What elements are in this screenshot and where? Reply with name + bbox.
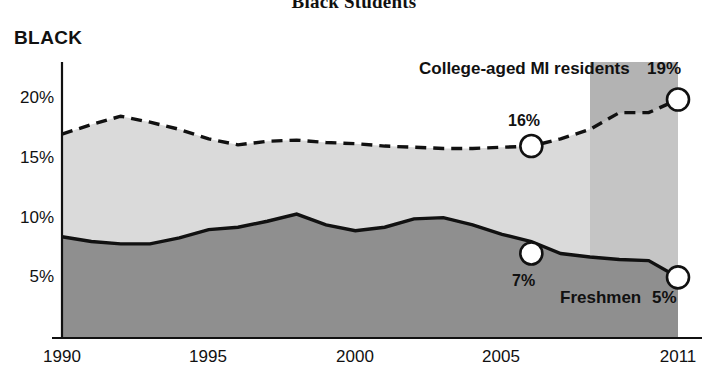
y-tick-label-20: 20% <box>6 88 54 108</box>
y-tick-label-5: 5% <box>6 267 54 287</box>
annotation-upper-series-label: College-aged MI residents <box>419 59 630 79</box>
chart-figure: Black Students BLACK 20% 15% 10% 5% 1990… <box>0 0 708 387</box>
x-tick-label-1995: 1995 <box>178 347 238 367</box>
annotation-upper-series-value: 19% <box>647 59 681 79</box>
x-tick-label-2005: 2005 <box>471 347 531 367</box>
x-tick-label-2011: 2011 <box>648 347 708 367</box>
annotation-lower-series-value: 5% <box>652 288 677 308</box>
x-tick-label-2000: 2000 <box>325 347 385 367</box>
annotation-mid-value: 16% <box>508 112 540 130</box>
upper-series-marker-2011 <box>667 89 689 111</box>
lower-series-marker-2011 <box>667 266 689 288</box>
annotation-lower-series-label: Freshmen <box>560 288 641 308</box>
y-tick-label-10: 10% <box>6 208 54 228</box>
lower-series-marker-2006 <box>520 242 542 264</box>
annotation-lower-value: 7% <box>512 272 535 290</box>
upper-series-marker-2006 <box>520 135 542 157</box>
y-tick-label-15: 15% <box>6 148 54 168</box>
x-tick-label-1990: 1990 <box>32 347 92 367</box>
